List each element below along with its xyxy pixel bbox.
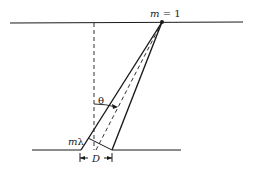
apex-point	[160, 20, 164, 24]
d-left-arrowhead	[80, 156, 85, 160]
path-difference-segment	[88, 138, 112, 150]
d-right-arrowhead	[107, 156, 112, 160]
top-surface-line	[10, 22, 243, 23]
diagram-svg: m = 1 θ mλ D	[0, 0, 253, 173]
order-label: m = 1	[150, 8, 181, 19]
theta-arrowhead	[112, 104, 118, 109]
center-dashed-beam	[96, 22, 162, 150]
grating-diffraction-diagram: m = 1 θ mλ D	[0, 0, 253, 173]
right-beam-line	[112, 22, 162, 150]
spacing-label: D	[91, 153, 100, 164]
theta-label: θ	[98, 95, 104, 106]
path-difference-label: mλ	[68, 136, 84, 147]
left-beam-line	[81, 22, 162, 150]
